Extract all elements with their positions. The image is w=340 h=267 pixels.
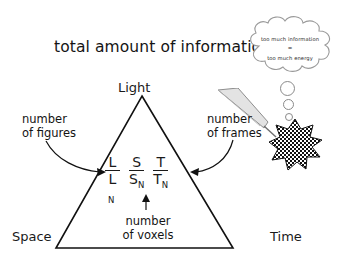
left-annotation-arrow xyxy=(46,141,100,172)
formula-term-light: L L N xyxy=(105,155,120,186)
annotation-number-of-voxels: number of voxels xyxy=(111,214,185,242)
triangle-bottom-right-label: Time xyxy=(270,229,302,244)
right-arrow-head xyxy=(190,168,199,176)
formula-term-time: T TN xyxy=(153,155,168,190)
formula-term-light-subscript: N xyxy=(108,196,114,205)
formula-term-time-subscript: N xyxy=(162,180,168,190)
formula-term-light-numerator: L xyxy=(108,155,118,170)
formula-term-space-denominator-base: S xyxy=(129,171,138,187)
formula-term-time-denominator-base: T xyxy=(153,171,162,187)
figure-canvas: total amount of information too much inf… xyxy=(0,0,340,267)
annotation-frames-line-2: of frames xyxy=(207,126,262,140)
annotation-number-of-frames: number of frames xyxy=(207,112,262,140)
formula-term-space-subscript: N xyxy=(138,180,144,190)
formula-term-time-numerator: T xyxy=(155,155,166,170)
formula-expression: L L N S SN T TN xyxy=(105,155,168,190)
annotation-voxels-line-2: of voxels xyxy=(111,228,185,242)
triangle-apex-label: Light xyxy=(118,80,150,95)
formula-term-space-numerator: S xyxy=(131,155,142,170)
voxel-arrow-head xyxy=(142,194,150,202)
triangle-bottom-left-label: Space xyxy=(12,229,52,244)
formula-term-light-denominator: L xyxy=(109,171,117,186)
annotation-frames-line-1: number xyxy=(207,112,262,126)
formula-term-space-denominator: SN xyxy=(129,171,144,189)
annotation-figures-line-2: of figures xyxy=(22,126,76,140)
annotation-number-of-figures: number of figures xyxy=(22,112,76,140)
right-annotation-arrow xyxy=(196,140,233,172)
annotation-voxels-line-1: number xyxy=(111,214,185,228)
formula-term-space: S SN xyxy=(129,155,144,190)
annotation-figures-line-1: number xyxy=(22,112,76,126)
formula-term-time-denominator: TN xyxy=(153,171,168,189)
